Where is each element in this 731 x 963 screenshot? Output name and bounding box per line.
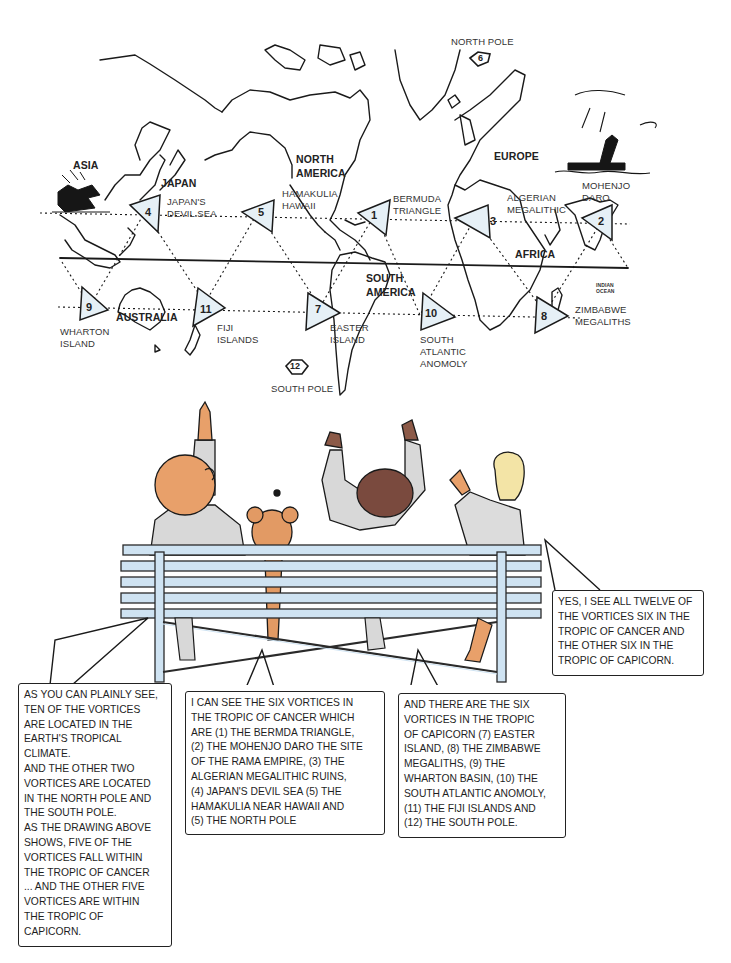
speech-bubble-right: YES, I SEE ALL TWELVE OF THE VORTICES SI… — [552, 590, 704, 676]
label-japan: JAPAN — [161, 177, 196, 189]
vortex-number-9: 9 — [86, 301, 92, 313]
greenland-coastline — [395, 50, 460, 120]
vortex-number-12: 12 — [290, 361, 300, 371]
tail-right — [545, 540, 600, 590]
vortex-label-7: EASTER ISLAND — [330, 322, 369, 346]
label-europe: EUROPE — [494, 150, 539, 162]
speech-bubble-center: I CAN SEE THE SIX VORTICES IN THE TROPIC… — [185, 691, 385, 835]
new-zealand-coastline — [185, 325, 200, 355]
label-africa: AFRICA — [515, 248, 555, 260]
vortex-number-7: 7 — [315, 303, 321, 315]
caribbean-coastline — [325, 220, 365, 250]
vortex-number-11: 11 — [200, 303, 212, 315]
vortex-number-10: 10 — [425, 307, 437, 319]
vortex-triangle-2 — [582, 205, 612, 240]
vortex-label-5: HAMAKULIA HAWAII — [282, 188, 338, 212]
vortex-number-8: 8 — [541, 310, 547, 322]
label-asia: ASIA — [73, 159, 99, 171]
world-vortex-map: ASIA JAPAN NORTH AMERICA EUROPE AFRICA S… — [0, 0, 731, 400]
southeast-asia-coastline — [60, 215, 135, 268]
vortex-triangle-9 — [80, 287, 108, 320]
label-indian-ocean: INDIAN OCEAN — [596, 282, 618, 294]
sinking-ship-mohenjo-daro — [555, 90, 656, 173]
tail-left — [50, 618, 148, 685]
speech-bubble-left: AS YOU CAN PLAINLY SEE, TEN OF THE VORTI… — [18, 683, 172, 947]
person-pointing-up — [150, 402, 245, 555]
vortex-label-8: ZIMBABWE MEGALITHS — [575, 304, 631, 328]
person-blonde-woman — [450, 452, 525, 555]
vortex-label-12: SOUTH POLE — [271, 383, 333, 395]
label-north-america: NORTH AMERICA — [296, 152, 356, 180]
speech-bubble-right-center: AND THERE ARE THE SIX VORTICES IN THE TR… — [398, 693, 566, 838]
vortex-number-1: 1 — [371, 209, 377, 221]
tail-right-center — [410, 650, 440, 685]
person-hands-raised — [322, 420, 425, 530]
vortex-label-10: SOUTH ATLANTIC ANOMOLY — [420, 334, 468, 370]
vortex-number-6: 6 — [478, 53, 483, 63]
vortex-label-11: FIJI ISLANDS — [217, 322, 258, 346]
vortex-number-2: 2 — [598, 215, 604, 227]
vortex-number-4: 4 — [145, 206, 151, 218]
vortex-label-1: BERMUDA TRIANGLE — [393, 193, 441, 217]
legs — [175, 618, 492, 662]
vortex-label-3: ALGERIAN MEGALITHIC — [507, 192, 566, 216]
sinking-ship-asia — [52, 170, 110, 212]
vortex-triangle-3 — [455, 205, 490, 238]
vortex-label-6: NORTH POLE — [451, 36, 514, 48]
label-south-america: SOUTH AMERICA — [366, 271, 426, 299]
vortex-label-2: MOHENJO DARO — [582, 180, 630, 204]
europe-coastline — [448, 70, 525, 185]
vortex-number-5: 5 — [258, 206, 264, 218]
arctic-islands — [265, 45, 365, 70]
label-australia: AUSTRALIA — [116, 311, 178, 323]
vortex-number-3: 3 — [490, 215, 496, 227]
vortex-label-9: WHARTON ISLAND — [60, 326, 109, 350]
vortex-label-4: JAPAN'S DEVIL SEA — [167, 196, 217, 220]
